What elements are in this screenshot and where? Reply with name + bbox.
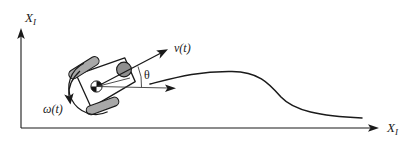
trajectory-curve-icon — [150, 71, 362, 118]
figure-canvas: XI XI v(t) θ ω(t) — [0, 0, 418, 151]
velocity-label: v(t) — [174, 41, 191, 55]
robot-kinematics-figure: XI XI v(t) θ ω(t) — [0, 0, 418, 151]
angular-velocity-label: ω(t) — [43, 102, 63, 116]
vertical-axis-label: XI — [24, 10, 37, 27]
angle-arc-icon — [138, 67, 142, 88]
horizontal-axis-label: XI — [386, 120, 399, 137]
axis-horizontal — [21, 124, 379, 132]
axis-vertical — [17, 28, 25, 128]
heading-angle-label: θ — [144, 68, 150, 82]
